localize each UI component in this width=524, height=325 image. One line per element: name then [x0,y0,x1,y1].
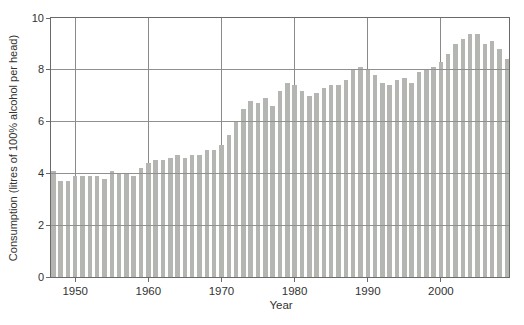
y-axis-title: Consumption (litres of 100% alcohol per … [7,18,21,278]
x-tick-mark-1970 [221,278,222,282]
bar-1953 [95,176,100,277]
bar-1971 [227,135,232,277]
x-tick-label-1980: 1980 [273,285,317,298]
bar-1948 [58,181,63,277]
x-tick-label-1950: 1950 [53,285,97,298]
x-axis-title: Year [254,299,308,311]
bar-2001 [446,54,451,277]
bar-1960 [146,163,151,277]
bar-2009 [505,59,510,277]
bar-1962 [161,160,166,277]
bar-1979 [285,83,290,277]
x-tick-label-2000: 2000 [419,285,463,298]
x-tick-mark-1990 [367,278,368,282]
y-tick-mark-0 [46,277,50,278]
y-tick-label-0: 0 [12,271,44,284]
y-tick-mark-2 [46,225,50,226]
bar-1968 [205,150,210,277]
bar-1981 [300,91,305,277]
horizontal-gridline-2 [51,225,509,226]
bar-2002 [453,44,458,277]
x-tick-label-1970: 1970 [199,285,243,298]
bar-1992 [380,83,385,277]
bar-2008 [497,49,502,277]
bar-1991 [373,75,378,277]
bar-1982 [307,96,312,277]
y-tick-mark-8 [46,69,50,70]
y-tick-mark-4 [46,173,50,174]
bar-1994 [395,80,400,277]
bar-1996 [409,83,414,277]
bar-2007 [490,41,495,277]
bar-1984 [322,88,327,277]
bar-1995 [402,78,407,277]
bar-1975 [256,103,261,277]
x-tick-mark-2000 [440,278,441,282]
bar-1987 [344,80,349,277]
bar-2003 [461,39,466,277]
x-tick-mark-1960 [148,278,149,282]
bar-1977 [270,106,275,277]
bar-1974 [248,101,253,277]
bar-1958 [131,176,136,277]
bar-1950 [73,176,78,277]
y-tick-label-10: 10 [12,12,44,25]
bar-1986 [336,85,341,277]
bar-1961 [153,160,158,277]
bar-1963 [168,158,173,277]
x-tick-mark-1950 [75,278,76,282]
y-tick-label-4: 4 [12,167,44,180]
bar-1985 [329,85,334,277]
x-tick-label-1990: 1990 [346,285,390,298]
bar-1959 [139,168,144,277]
bar-1965 [183,158,188,277]
y-tick-label-6: 6 [12,115,44,128]
bar-1973 [241,109,246,277]
x-tick-label-1960: 1960 [126,285,170,298]
bar-1972 [234,122,239,277]
bar-1969 [212,150,217,277]
horizontal-gridline-4 [51,173,509,174]
y-tick-mark-6 [46,121,50,122]
bar-2000 [439,62,444,277]
x-tick-mark-1980 [294,278,295,282]
y-tick-mark-10 [46,18,50,19]
alcohol-consumption-bar-chart: Consumption (litres of 100% alcohol per … [0,0,524,325]
bar-1976 [263,98,268,277]
y-tick-label-8: 8 [12,63,44,76]
bar-1997 [417,72,422,277]
horizontal-gridline-8 [51,69,509,70]
bar-1993 [387,85,392,277]
bar-1951 [80,176,85,277]
bar-1978 [278,91,283,277]
bar-1980 [292,85,297,277]
bar-1952 [88,176,93,277]
y-tick-label-2: 2 [12,219,44,232]
bar-1970 [219,145,224,277]
horizontal-gridline-6 [51,121,509,122]
bar-1954 [102,179,107,277]
plot-area [50,17,510,278]
bar-2006 [483,44,488,277]
bar-1949 [66,181,71,277]
